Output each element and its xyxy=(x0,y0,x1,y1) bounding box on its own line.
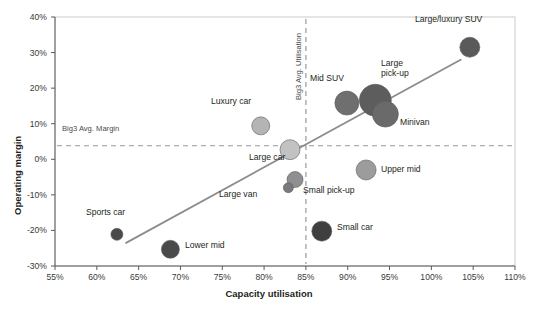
bubble-small-car xyxy=(312,221,332,241)
point-label-sports-car: Sports car xyxy=(86,207,125,217)
x-tick-label: 105% xyxy=(453,272,493,282)
x-tick-label: 75% xyxy=(202,272,242,282)
y-tick-label: 40% xyxy=(13,12,47,22)
x-tick-label: 60% xyxy=(77,272,117,282)
x-tick-label: 110% xyxy=(495,272,535,282)
y-tick-label: 10% xyxy=(13,119,47,129)
bubble-mid-suv xyxy=(335,91,359,115)
y-tick-label: -20% xyxy=(13,225,47,235)
point-label-large-van: Large van xyxy=(219,189,257,199)
y-tick-label: -30% xyxy=(13,261,47,271)
point-label-large-pick-up: Largepick-up xyxy=(381,58,409,78)
big3-avg-utilisation-label: Big3 Avg. Utilisation xyxy=(294,33,303,100)
point-label-small-car: Small car xyxy=(337,222,373,232)
bubble-sports-car xyxy=(111,228,123,240)
bubble-lower-mid xyxy=(161,240,179,258)
point-label-small-pick-up: Small pick-up xyxy=(303,185,355,195)
x-tick-label: 55% xyxy=(35,272,75,282)
point-label-upper-mid: Upper mid xyxy=(381,164,421,174)
x-axis-title: Capacity utilisation xyxy=(0,288,538,299)
bubble-upper-mid xyxy=(356,160,376,180)
y-tick-label: 30% xyxy=(13,48,47,58)
point-label-luxury-car: Luxury car xyxy=(211,96,251,106)
y-tick-label: 20% xyxy=(13,83,47,93)
scatter-chart: Capacity utilisation Operating margin 40… xyxy=(0,0,538,318)
x-tick-label: 80% xyxy=(244,272,284,282)
x-axis-ticks xyxy=(55,266,515,270)
point-label-minivan: Minivan xyxy=(400,117,430,127)
y-tick-label: -10% xyxy=(13,190,47,200)
x-tick-label: 100% xyxy=(411,272,451,282)
bubble-luxury-car xyxy=(252,117,270,135)
point-label-large-luxury-suv: Large/luxury SUV xyxy=(415,14,482,24)
bubble-large-van-small xyxy=(283,183,293,193)
bubble-large-luxury-suv xyxy=(460,37,480,57)
x-tick-label: 85% xyxy=(286,272,326,282)
y-axis-ticks xyxy=(51,17,55,266)
x-tick-label: 95% xyxy=(370,272,410,282)
y-tick-label: 0% xyxy=(13,154,47,164)
x-tick-label: 90% xyxy=(328,272,368,282)
point-label-lower-mid: Lower mid xyxy=(185,240,225,250)
bubble-minivan xyxy=(372,101,398,127)
point-label-large-car: Large car xyxy=(249,152,285,162)
x-tick-label: 70% xyxy=(160,272,200,282)
y-axis-title: Operating margin xyxy=(12,136,23,215)
point-label-mid-suv: Mid SUV xyxy=(310,73,344,83)
big3-avg-margin-label: Big3 Avg. Margin xyxy=(62,124,119,133)
x-tick-label: 65% xyxy=(119,272,159,282)
